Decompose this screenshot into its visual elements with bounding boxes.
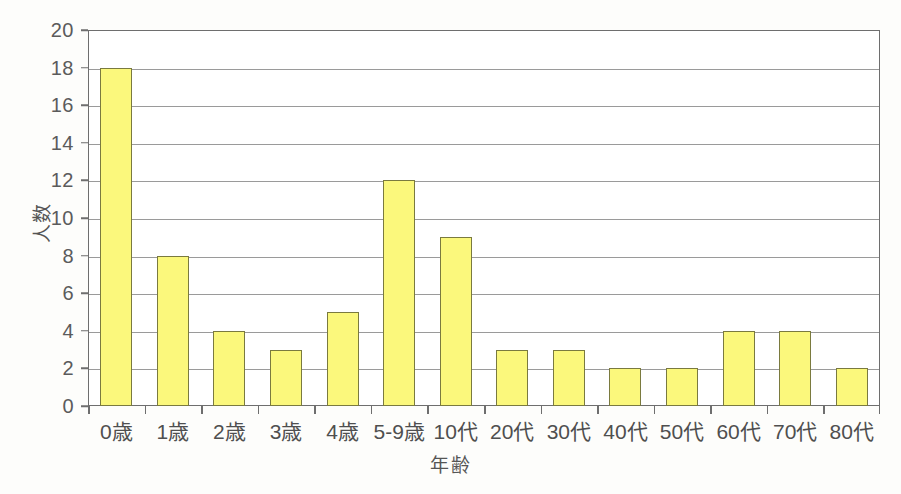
y-axis-tick-label: 14	[51, 131, 74, 154]
y-axis-tick-mark	[81, 180, 88, 182]
x-axis-tick-mark	[484, 406, 486, 414]
y-axis-tick-label: 18	[51, 56, 74, 79]
x-axis-tick-mark	[88, 406, 90, 414]
y-axis-tick-label: 20	[51, 19, 74, 42]
x-axis-tick-label: 10代	[434, 415, 478, 445]
x-axis-tick-label: 70代	[773, 415, 817, 445]
x-axis-tick-label: 30代	[547, 415, 591, 445]
x-axis-tick-mark	[541, 406, 543, 414]
x-axis-tick-mark	[145, 406, 147, 414]
y-axis-tick-labels: 02468101214161820	[0, 30, 88, 406]
x-axis-tick-marks	[88, 406, 880, 415]
gridline	[89, 144, 879, 145]
x-axis-tick-mark	[879, 406, 881, 414]
y-axis-tick-label: 8	[62, 244, 74, 267]
y-axis-tick-mark	[81, 330, 88, 332]
x-axis-tick-label: 4歳	[326, 415, 359, 445]
y-axis-tick-mark	[81, 255, 88, 257]
y-axis-tick-mark	[81, 292, 88, 294]
chart-figure: 人数 02468101214161820 0歳1歳2歳3歳4歳5-9歳10代20…	[0, 0, 901, 494]
x-axis-tick-label: 2歳	[213, 415, 246, 445]
y-axis-tick-mark	[81, 29, 88, 31]
x-axis-tick-mark	[314, 406, 316, 414]
y-axis-tick-label: 0	[62, 395, 74, 418]
gridline	[89, 106, 879, 107]
x-axis-tick-label: 1歳	[157, 415, 190, 445]
y-axis-tick-mark	[81, 104, 88, 106]
x-axis-tick-mark	[654, 406, 656, 414]
y-axis-tick-label: 4	[62, 319, 74, 342]
x-axis-tick-labels: 0歳1歳2歳3歳4歳5-9歳10代20代30代40代50代60代70代80代	[88, 415, 880, 447]
gridline	[89, 69, 879, 70]
x-axis-tick-label: 5-9歳	[373, 415, 424, 445]
x-axis-tick-label: 80代	[830, 415, 874, 445]
plot-area	[88, 30, 880, 406]
y-axis-tick-label: 2	[62, 357, 74, 380]
gridline	[89, 181, 879, 182]
x-axis-tick-label: 3歳	[270, 415, 303, 445]
gridline	[89, 332, 879, 333]
gridline	[89, 257, 879, 258]
x-axis-tick-label: 40代	[603, 415, 647, 445]
gridline	[89, 369, 879, 370]
x-axis-tick-label: 0歳	[100, 415, 133, 445]
x-axis-tick-mark	[710, 406, 712, 414]
gridline	[89, 219, 879, 220]
y-axis-tick-label: 6	[62, 282, 74, 305]
y-axis-tick-mark	[81, 67, 88, 69]
y-axis-tick-label: 16	[51, 94, 74, 117]
x-axis-tick-mark	[201, 406, 203, 414]
x-axis-tick-mark	[597, 406, 599, 414]
x-axis-tick-mark	[258, 406, 260, 414]
y-axis-tick-label: 10	[51, 207, 74, 230]
y-axis-tick-mark	[81, 405, 88, 407]
gridlines	[89, 31, 879, 405]
x-axis-tick-label: 50代	[660, 415, 704, 445]
x-axis-title: 年齢	[0, 450, 901, 477]
x-axis-tick-label: 20代	[490, 415, 534, 445]
x-axis-tick-mark	[823, 406, 825, 414]
gridline	[89, 294, 879, 295]
y-axis-tick-mark	[81, 142, 88, 144]
x-axis-tick-mark	[767, 406, 769, 414]
x-axis-tick-mark	[427, 406, 429, 414]
y-axis-tick-mark	[81, 217, 88, 219]
x-axis-tick-mark	[371, 406, 373, 414]
y-axis-tick-mark	[81, 368, 88, 370]
x-axis-tick-label: 60代	[716, 415, 760, 445]
y-axis-tick-label: 12	[51, 169, 74, 192]
